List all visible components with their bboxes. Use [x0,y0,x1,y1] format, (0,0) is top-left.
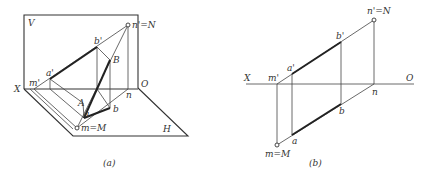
label-n: n [126,90,132,100]
projector-b [97,89,110,108]
label-m-M: m=M [265,149,291,159]
point-M [275,143,279,147]
label-a-prime: a' [46,68,54,78]
segment-a-prime-b-prime [292,42,341,74]
segment-a-prime-b-prime [50,47,97,79]
label-n-prime-N: n'=N [132,20,157,30]
point-N [126,23,130,27]
caption-b: (b) [309,158,322,168]
projector-m-2 [30,89,73,129]
label-B: B [112,55,120,65]
label-m-M: m=M [81,123,107,133]
label-n-prime-N: n'=N [367,6,392,16]
label-b: b [339,106,345,116]
label-a: a [292,136,297,146]
caption-a: (a) [103,158,116,168]
label-a: a [84,109,89,119]
v-plane-frame [24,15,138,89]
figure-a: V X O H n'=N b' B a' m' A a b n m=M (a) [13,15,188,168]
label-O: O [406,73,414,83]
label-O: O [141,79,149,89]
label-X: X [13,84,21,94]
label-m-prime: m' [268,73,279,83]
label-X: X [243,73,251,83]
label-H: H [162,124,171,134]
point-M [75,126,79,130]
segment-ab [292,104,341,135]
label-m-prime: m' [29,78,40,88]
label-n: n [372,87,378,97]
label-a-prime: a' [287,63,295,73]
projection-diagrams: V X O H n'=N b' B a' m' A a b n m=M (a) [0,0,425,181]
label-A: A [77,98,85,108]
label-b-prime: b' [94,36,102,46]
label-V: V [28,18,36,28]
label-b-prime: b' [336,31,344,41]
label-b: b [113,104,119,114]
point-N [372,18,376,22]
projector-m [34,89,77,128]
projector-b-prime-B [97,47,110,60]
figure-b: X O n'=N b' a' m' n b a m=M (b) [243,6,414,168]
